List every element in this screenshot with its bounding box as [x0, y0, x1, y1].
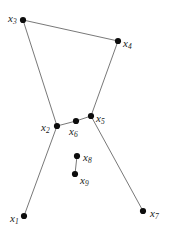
graph-node-x1[interactable]: [21, 213, 27, 219]
label-subscript-x7: 7: [155, 212, 159, 221]
graph-node-label-x4: x4: [123, 38, 132, 49]
graph-node-label-x3: x3: [8, 13, 17, 24]
graph-node-label-x9: x9: [80, 175, 89, 186]
label-subscript-x9: 9: [85, 179, 89, 188]
graph-node-x7[interactable]: [140, 208, 146, 214]
graph-node-label-x2: x2: [41, 122, 50, 133]
graph-node-x2[interactable]: [54, 123, 60, 129]
graph-canvas: [0, 0, 171, 241]
graph-edge-x3-x4: [23, 20, 118, 41]
graph-node-label-x6: x6: [69, 126, 78, 137]
graph-edge-x3-x2: [23, 20, 57, 126]
label-subscript-x6: 6: [74, 130, 78, 139]
edge-layer: [23, 20, 143, 216]
graph-node-x5[interactable]: [88, 113, 94, 119]
graph-node-x9[interactable]: [72, 171, 78, 177]
graph-edge-x2-x1: [24, 126, 57, 216]
label-subscript-x5: 5: [101, 117, 105, 126]
graph-node-x3[interactable]: [20, 17, 26, 23]
label-subscript-x4: 4: [128, 42, 132, 51]
graph-node-x6[interactable]: [73, 118, 79, 124]
graph-edge-x5-x7: [91, 116, 143, 211]
graph-node-x8[interactable]: [74, 153, 80, 159]
label-subscript-x1: 1: [15, 217, 19, 226]
graph-node-x4[interactable]: [115, 38, 121, 44]
graph-node-label-x8: x8: [83, 152, 92, 163]
graph-edge-x4-x5: [91, 41, 118, 116]
label-subscript-x2: 2: [46, 126, 50, 135]
label-subscript-x8: 8: [88, 156, 92, 165]
graph-node-label-x1: x1: [10, 213, 19, 224]
label-subscript-x3: 3: [13, 17, 17, 26]
graph-node-label-x7: x7: [150, 208, 159, 219]
graph-figure: x1x2x3x4x5x6x7x8x9: [0, 0, 171, 241]
graph-node-label-x5: x5: [96, 113, 105, 124]
